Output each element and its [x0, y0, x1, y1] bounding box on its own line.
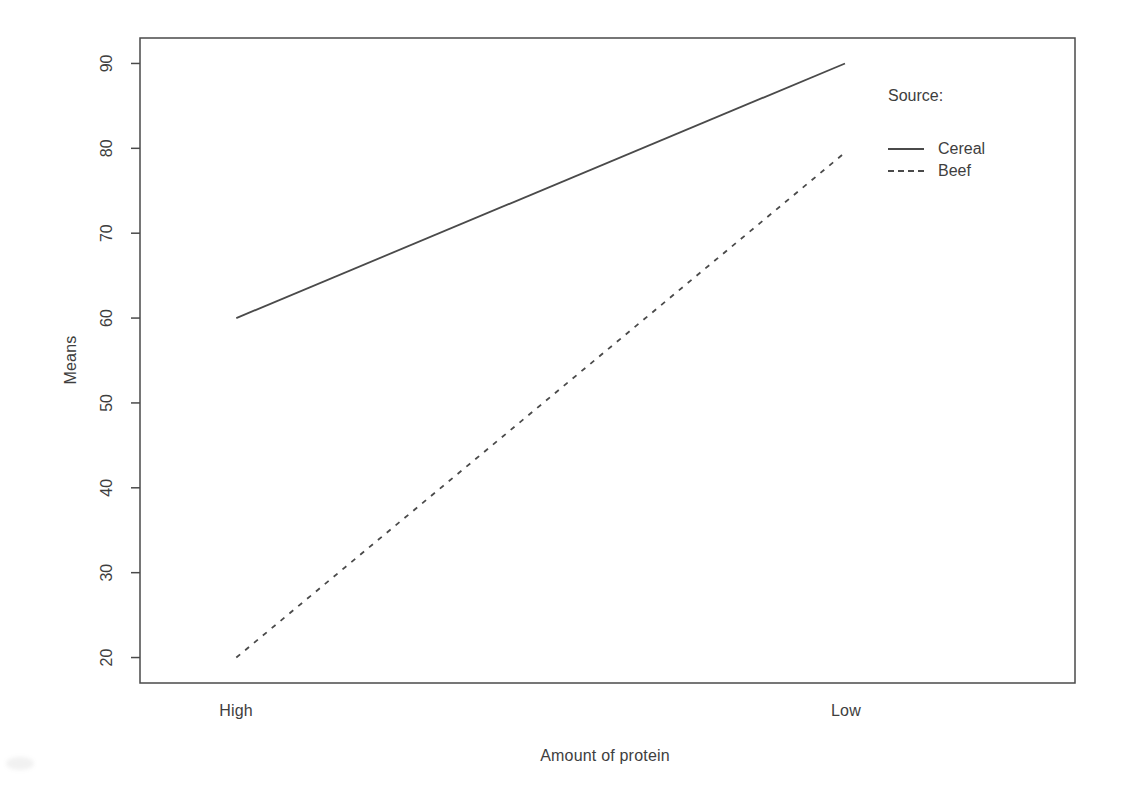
legend-title: Source: — [888, 87, 985, 105]
cereal-line — [236, 63, 845, 318]
dashed-line-swatch — [888, 170, 924, 172]
interaction-plot-figure: 2030405060708090 Means High Low Amount o… — [0, 0, 1126, 806]
solid-line-swatch — [888, 148, 924, 150]
y-tick-label: 80 — [99, 139, 116, 157]
y-axis-label: Means — [62, 335, 80, 384]
y-tick-label: 70 — [99, 224, 116, 242]
legend: Source: Cereal Beef — [888, 87, 985, 182]
x-tick-label-high: High — [219, 702, 253, 720]
y-tick-label: 20 — [99, 649, 116, 667]
y-tick-label: 40 — [99, 479, 116, 497]
y-tick-label: 90 — [99, 54, 116, 72]
legend-item-beef: Beef — [888, 160, 985, 182]
y-tick-label: 50 — [99, 394, 116, 412]
y-tick-label: 30 — [99, 564, 116, 582]
legend-label-cereal: Cereal — [938, 140, 985, 158]
legend-item-cereal: Cereal — [888, 138, 985, 160]
beef-line — [236, 153, 845, 658]
x-tick-label-low: Low — [831, 702, 861, 720]
scan-smudge — [6, 757, 34, 770]
y-axis-ticks: 2030405060708090 — [99, 54, 141, 666]
y-tick-label: 60 — [99, 309, 116, 327]
series-lines — [236, 63, 845, 657]
legend-label-beef: Beef — [938, 162, 971, 180]
x-axis-label: Amount of protein — [540, 747, 670, 765]
